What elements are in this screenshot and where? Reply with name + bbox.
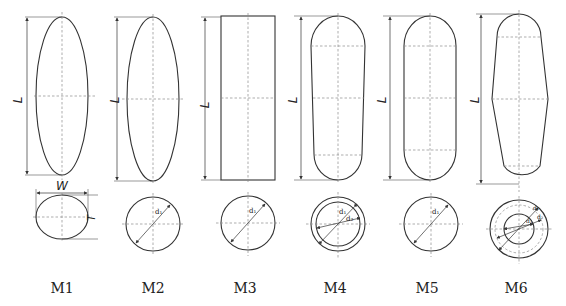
model-m6-cross-section: d₁ d₂ d₃ bbox=[486, 196, 552, 264]
morphology-diagram: L W T L d₁ L bbox=[0, 0, 566, 306]
model-m1-side-view: L bbox=[11, 12, 95, 180]
diameter-label: d₁ bbox=[249, 207, 256, 215]
diameter-3-label: d₃ bbox=[526, 217, 533, 224]
caption-m5: M5 bbox=[407, 280, 447, 296]
diameter-label: d₁ bbox=[155, 208, 162, 216]
caption-m2: M2 bbox=[133, 280, 173, 296]
inner-diameter-label: d₂ bbox=[346, 215, 353, 223]
model-m3-cross-section: d₁ bbox=[216, 192, 280, 256]
model-m5-cross-section: d₁ bbox=[399, 193, 463, 257]
diameter-label: d₁ bbox=[432, 208, 439, 216]
width-label: W bbox=[56, 179, 69, 193]
caption-m6: M6 bbox=[496, 280, 536, 296]
model-m4-side-view: L bbox=[286, 13, 365, 184]
diameter-1-label: d₁ bbox=[533, 204, 539, 211]
thickness-label: T bbox=[86, 214, 97, 221]
model-m2-side-view: L bbox=[108, 14, 184, 184]
caption-m1: M1 bbox=[42, 280, 82, 296]
model-m4-cross-section: d₁ d₂ bbox=[306, 192, 370, 258]
diameter-2-label: d₂ bbox=[537, 213, 544, 220]
model-m5-side-view: L bbox=[375, 13, 456, 184]
length-label: L bbox=[375, 97, 389, 104]
model-m3-side-view: L bbox=[198, 13, 275, 184]
model-m2-cross-section: d₁ bbox=[122, 193, 184, 256]
length-label: L bbox=[286, 97, 300, 104]
caption-m4: M4 bbox=[315, 280, 355, 296]
length-label: L bbox=[198, 102, 212, 109]
caption-m3: M3 bbox=[225, 280, 265, 296]
model-m1-cross-section: W T bbox=[33, 179, 98, 242]
length-label: L bbox=[468, 97, 482, 104]
length-label: L bbox=[108, 97, 122, 104]
length-label: L bbox=[11, 97, 25, 104]
model-m6-side-view: L bbox=[468, 10, 548, 192]
